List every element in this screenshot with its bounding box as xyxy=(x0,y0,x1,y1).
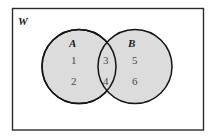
set-a-label: A xyxy=(69,38,76,49)
element-two: 2 xyxy=(71,76,77,87)
venn-diagram-canvas xyxy=(0,0,215,139)
element-one: 1 xyxy=(71,55,77,66)
set-b-label: B xyxy=(128,38,135,49)
universal-set-label: W xyxy=(18,16,28,27)
venn-diagram-figure: W A B 1 2 3 4 5 6 xyxy=(0,0,215,139)
element-six: 6 xyxy=(132,76,138,87)
element-five: 5 xyxy=(132,55,138,66)
element-four: 4 xyxy=(103,76,109,87)
element-three: 3 xyxy=(103,55,109,66)
